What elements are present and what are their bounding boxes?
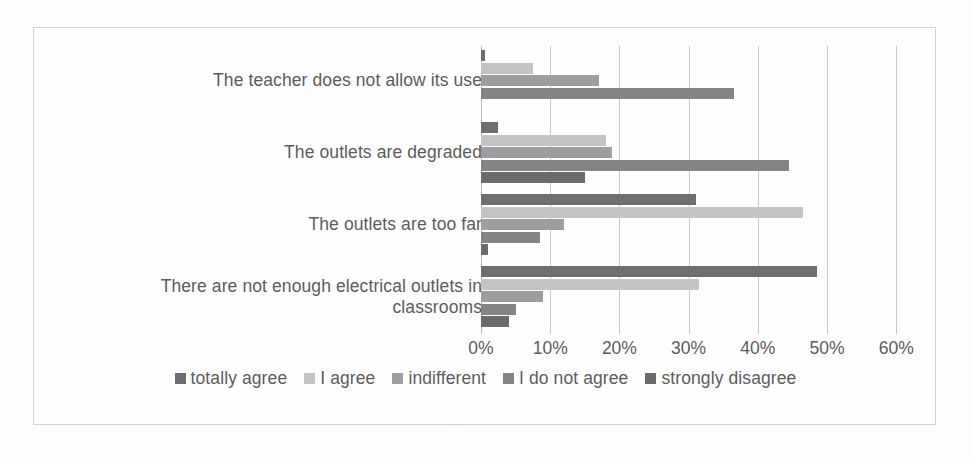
chart-legend: totally agreeI agreeindifferentI do not …	[34, 368, 937, 389]
bar-2-1	[481, 122, 498, 133]
x-tick-label-50: 50%	[797, 338, 857, 359]
legend-label-5: strongly disagree	[661, 368, 796, 389]
legend-swatch-icon-2	[304, 373, 315, 384]
scanned-page: The teacher does not allow its useThe ou…	[0, 0, 972, 457]
legend-label-2: I agree	[320, 368, 375, 389]
x-tick-label-40: 40%	[728, 338, 788, 359]
bar-3-3	[481, 219, 564, 230]
bar-1-4	[481, 88, 734, 99]
bar-4-3	[481, 291, 543, 302]
bar-3-4	[481, 232, 540, 243]
x-tick-label-10: 10%	[520, 338, 580, 359]
bar-3-5	[481, 244, 488, 255]
bar-2-2	[481, 135, 606, 146]
legend-label-1: totally agree	[191, 368, 288, 389]
bar-2-3	[481, 147, 612, 158]
legend-swatch-icon-5	[645, 373, 656, 384]
category-label-4: There are not enough electrical outlets …	[82, 276, 482, 318]
category-label-3: The outlets are too far	[82, 214, 482, 235]
legend-swatch-icon-1	[175, 373, 186, 384]
legend-label-3: indifferent	[408, 368, 486, 389]
gridline-60pct	[896, 46, 897, 334]
bar-4-2	[481, 279, 699, 290]
legend-label-4: I do not agree	[519, 368, 628, 389]
bar-4-4	[481, 304, 516, 315]
legend-item-1[interactable]: totally agree	[175, 368, 288, 389]
gridline-40pct	[758, 46, 759, 334]
legend-item-5[interactable]: strongly disagree	[645, 368, 796, 389]
gridline-50pct	[827, 46, 828, 334]
x-tick-label-0: 0%	[451, 338, 511, 359]
chart-frame: The teacher does not allow its useThe ou…	[33, 27, 936, 425]
x-tick-label-20: 20%	[589, 338, 649, 359]
plot-area: The teacher does not allow its useThe ou…	[34, 28, 937, 426]
bar-4-5	[481, 316, 509, 327]
bar-1-2	[481, 63, 533, 74]
bar-1-1	[481, 50, 485, 61]
bar-3-1	[481, 194, 696, 205]
legend-swatch-icon-3	[392, 373, 403, 384]
category-label-2: The outlets are degraded	[82, 142, 482, 163]
legend-item-3[interactable]: indifferent	[392, 368, 486, 389]
bar-1-3	[481, 75, 599, 86]
category-label-1: The teacher does not allow its use	[82, 70, 482, 91]
legend-item-2[interactable]: I agree	[304, 368, 375, 389]
legend-item-4[interactable]: I do not agree	[503, 368, 628, 389]
bar-2-4	[481, 160, 789, 171]
bar-3-2	[481, 207, 803, 218]
bar-4-1	[481, 266, 817, 277]
bar-2-5	[481, 172, 585, 183]
x-tick-label-30: 30%	[659, 338, 719, 359]
x-tick-label-60: 60%	[866, 338, 926, 359]
legend-swatch-icon-4	[503, 373, 514, 384]
